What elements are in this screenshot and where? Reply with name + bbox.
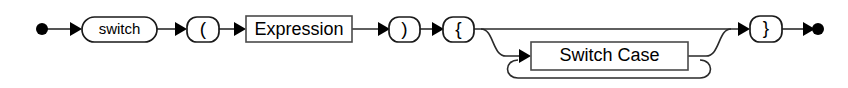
- arrow-icon-to-switch: [70, 22, 82, 36]
- end-point-icon: [812, 23, 824, 35]
- node-switch-keyword[interactable]: switch: [82, 17, 157, 42]
- node-close-brace-label: }: [763, 17, 769, 38]
- node-switch-keyword-label: switch: [99, 20, 141, 37]
- node-switch-case-label: Switch Case: [559, 45, 659, 65]
- arrow-icon-to-openparen: [175, 22, 187, 36]
- railroad-diagram-canvas: switch ( Expression ) { Switch Case: [0, 0, 848, 88]
- node-close-brace[interactable]: }: [750, 16, 782, 42]
- arrow-icon-to-expression: [234, 22, 246, 36]
- node-expression[interactable]: Expression: [246, 16, 352, 42]
- rail-branch-up-right: [688, 29, 731, 56]
- arrow-icon-to-closebrace: [738, 22, 750, 36]
- node-open-paren-label: (: [200, 18, 207, 39]
- node-expression-label: Expression: [254, 19, 343, 39]
- node-open-paren[interactable]: (: [187, 17, 219, 42]
- node-close-paren[interactable]: ): [389, 17, 420, 42]
- railroad-diagram: switch ( Expression ) { Switch Case: [0, 0, 848, 88]
- node-open-brace-label: {: [455, 18, 462, 39]
- arrow-icon-to-switchcase: [519, 49, 531, 63]
- node-open-brace[interactable]: {: [443, 17, 474, 42]
- node-close-paren-label: ): [401, 18, 407, 39]
- start-point-icon: [36, 23, 48, 35]
- node-switch-case[interactable]: Switch Case: [531, 42, 688, 70]
